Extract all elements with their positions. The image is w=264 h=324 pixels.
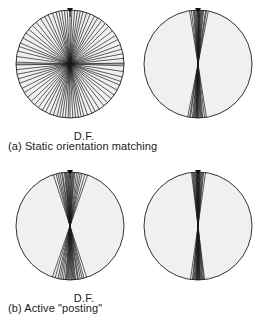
target-orientation-marker-stem xyxy=(70,175,71,179)
polar-plot-a-control: Control xyxy=(142,8,254,120)
target-orientation-marker-stem xyxy=(198,13,199,17)
orientation-response-figure: D.F. Control (a) Static orientation matc… xyxy=(0,0,264,324)
polar-plot-a-df: D.F. xyxy=(14,8,126,120)
panel-a-caption: (a) Static orientation matching xyxy=(8,140,157,152)
polar-plot-a-df-svg xyxy=(14,8,126,120)
panel-a: D.F. Control (a) Static orientation matc… xyxy=(0,0,264,162)
panel-b: D.F. Control (b) Active "posting" xyxy=(0,162,264,324)
target-orientation-marker-stem xyxy=(70,13,71,17)
polar-plot-b-df: D.F. xyxy=(14,170,126,282)
target-orientation-marker-stem xyxy=(198,175,199,179)
polar-plot-b-control: Control xyxy=(142,170,254,282)
polar-plot-b-df-svg xyxy=(14,170,126,282)
panel-b-caption: (b) Active "posting" xyxy=(8,302,102,314)
polar-plot-a-control-svg xyxy=(142,8,254,120)
polar-plot-b-control-svg xyxy=(142,170,254,282)
